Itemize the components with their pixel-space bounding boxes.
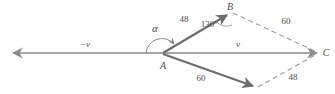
diagram-canvas — [0, 0, 335, 94]
degree-symbol: ° — [214, 20, 217, 29]
interior-angle-arc — [216, 21, 232, 26]
interior-angle-value: 130 — [201, 19, 215, 29]
point-label-b: B — [227, 2, 233, 12]
ad-magnitude: 60 — [197, 74, 206, 83]
alpha-angle-arc — [146, 39, 174, 53]
bc-magnitude: 60 — [282, 17, 291, 26]
alpha-label: α — [152, 23, 158, 34]
vector-ad — [163, 54, 253, 86]
dashed-dc — [258, 54, 317, 87]
vector-diagram: B A C −v v α 130° 48 60 60 48 — [0, 0, 335, 94]
interior-angle-label: 130° — [201, 20, 218, 29]
ab-magnitude: 48 — [180, 15, 189, 24]
dc-magnitude: 48 — [289, 73, 298, 82]
point-label-a: A — [160, 61, 166, 71]
vector-ab — [163, 15, 227, 53]
point-label-c: C — [323, 48, 330, 58]
minus-v-label: −v — [80, 40, 90, 49]
v-label: v — [236, 40, 240, 49]
dashed-bc — [233, 13, 317, 52]
